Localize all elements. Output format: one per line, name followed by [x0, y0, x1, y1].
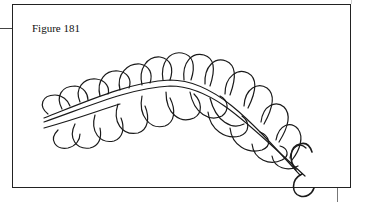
- feather-illustration: [0, 0, 369, 202]
